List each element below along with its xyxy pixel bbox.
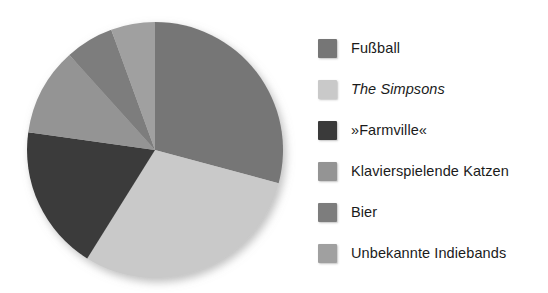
pie-chart-plot-area — [0, 0, 300, 293]
legend-color-swatch — [318, 244, 337, 263]
legend-item-label: Bier — [351, 205, 377, 221]
legend-item-label: »Farmville« — [351, 123, 427, 139]
legend-item-label: Klavierspielende Katzen — [351, 164, 509, 180]
legend-color-swatch — [318, 162, 337, 181]
legend-color-swatch — [318, 203, 337, 222]
legend-color-swatch — [318, 121, 337, 140]
legend-item-label: Fußball — [351, 41, 400, 57]
legend-item-label: Unbekannte Indiebands — [351, 246, 506, 262]
legend-item[interactable]: Klavierspielende Katzen — [318, 151, 543, 192]
legend-item[interactable]: Unbekannte Indiebands — [318, 233, 543, 274]
legend-item[interactable]: Bier — [318, 192, 543, 233]
chart-legend: FußballThe Simpsons»Farmville«Klavierspi… — [318, 28, 543, 273]
legend-item[interactable]: The Simpsons — [318, 69, 543, 110]
pie-slice-group — [27, 22, 283, 278]
legend-item-label: The Simpsons — [351, 82, 445, 98]
legend-item[interactable]: »Farmville« — [318, 110, 543, 151]
pie-chart-svg — [0, 0, 300, 293]
legend-color-swatch — [318, 39, 337, 58]
legend-color-swatch — [318, 80, 337, 99]
pie-chart-figure: FußballThe Simpsons»Farmville«Klavierspi… — [0, 0, 548, 293]
legend-item[interactable]: Fußball — [318, 28, 543, 69]
